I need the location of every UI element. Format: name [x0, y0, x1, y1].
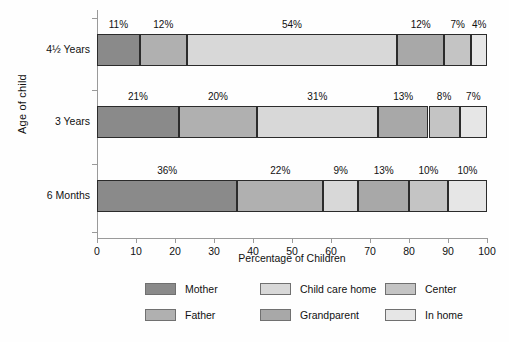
x-axis-tick: [253, 238, 254, 243]
legend-item[interactable]: Father: [145, 306, 215, 324]
bar-segment-value-label: 9%: [321, 165, 361, 176]
x-axis-tick: [97, 238, 98, 243]
bar-segment-value-label: 12%: [401, 19, 441, 30]
plot-area: 0102030405060708090100 11%12%54%12%7%4%2…: [97, 10, 487, 238]
x-axis-tick: [409, 238, 410, 243]
x-axis-tick: [175, 238, 176, 243]
bar-segment[interactable]: [179, 106, 257, 138]
bar-segment-value-label: 54%: [272, 19, 312, 30]
legend-label: Child care home: [300, 283, 376, 295]
y-axis-category-label: 4½ Years: [16, 43, 90, 55]
stacked-bar: 21%20%31%13%8%7%: [97, 106, 487, 138]
legend-item[interactable]: Child care home: [260, 280, 376, 298]
bar-segment-value-label: 11%: [98, 19, 138, 30]
legend-swatch: [260, 309, 291, 321]
bar-segment[interactable]: [397, 34, 444, 66]
legend-swatch: [145, 309, 176, 321]
bar-segment[interactable]: [409, 180, 448, 212]
legend-item[interactable]: Center: [385, 280, 457, 298]
bar-segment-value-label: 22%: [260, 165, 300, 176]
x-axis-tick: [370, 238, 371, 243]
legend-label: Center: [425, 283, 457, 295]
bar-segment[interactable]: [97, 180, 237, 212]
bar-segment-value-label: 7%: [453, 91, 493, 102]
legend-swatch: [145, 283, 176, 295]
bar-segment-value-label: 13%: [383, 91, 423, 102]
bar-segment-value-label: 4%: [459, 19, 499, 30]
bar-segment-value-label: 36%: [147, 165, 187, 176]
bar-segment[interactable]: [323, 180, 358, 212]
bar-row: 21%20%31%13%8%7%: [97, 106, 487, 138]
bar-segment-value-label: 13%: [364, 165, 404, 176]
bar-segment[interactable]: [257, 106, 378, 138]
x-axis-tick: [331, 238, 332, 243]
bar-segment[interactable]: [378, 106, 429, 138]
chart-legend: MotherChild care homeCenterFatherGrandpa…: [145, 280, 505, 336]
x-axis-tick: [448, 238, 449, 243]
x-axis-tick: [136, 238, 137, 243]
bar-segment-value-label: 12%: [143, 19, 183, 30]
y-axis-category-label: 3 Years: [16, 115, 90, 127]
bar-segment[interactable]: [448, 180, 487, 212]
legend-item[interactable]: Mother: [145, 280, 218, 298]
bar-segment[interactable]: [460, 106, 487, 138]
x-axis-tick: [292, 238, 293, 243]
bar-row: 11%12%54%12%7%4%: [97, 34, 487, 66]
bar-segment[interactable]: [97, 106, 179, 138]
bar-segment-value-label: 31%: [297, 91, 337, 102]
y-axis-tick: [92, 18, 97, 19]
bar-segment[interactable]: [237, 180, 323, 212]
bar-segment[interactable]: [471, 34, 487, 66]
stacked-bar: 11%12%54%12%7%4%: [97, 34, 487, 66]
x-axis-tick: [487, 238, 488, 243]
bar-segment-value-label: 21%: [118, 91, 158, 102]
legend-label: Mother: [185, 283, 218, 295]
stacked-bar-chart-figure: Age of child 4½ Years3 Years6 Months 010…: [0, 0, 509, 342]
bar-segment-value-label: 10%: [409, 165, 449, 176]
legend-swatch: [260, 283, 291, 295]
y-axis-category-labels: 4½ Years3 Years6 Months: [12, 0, 90, 240]
stacked-bar: 36%22%9%13%10%10%: [97, 180, 487, 212]
legend-label: In home: [425, 309, 463, 321]
bar-segment[interactable]: [140, 34, 187, 66]
legend-label: Father: [185, 309, 215, 321]
legend-item[interactable]: In home: [385, 306, 463, 324]
bar-segment[interactable]: [97, 34, 140, 66]
x-axis-tick: [214, 238, 215, 243]
bar-row: 36%22%9%13%10%10%: [97, 180, 487, 212]
bar-segment[interactable]: [187, 34, 398, 66]
bar-segment-value-label: 10%: [448, 165, 488, 176]
bar-segment[interactable]: [444, 34, 471, 66]
bar-segment[interactable]: [429, 106, 460, 138]
x-axis-title: Percentage of Children: [97, 252, 487, 264]
legend-item[interactable]: Grandparent: [260, 306, 359, 324]
y-axis-tick: [92, 232, 97, 233]
y-axis-tick: [92, 90, 97, 91]
legend-swatch: [385, 283, 416, 295]
legend-label: Grandparent: [300, 309, 359, 321]
y-axis-category-label: 6 Months: [16, 189, 90, 201]
bar-segment-value-label: 20%: [198, 91, 238, 102]
y-axis-tick: [92, 164, 97, 165]
bar-segment[interactable]: [358, 180, 409, 212]
legend-swatch: [385, 309, 416, 321]
